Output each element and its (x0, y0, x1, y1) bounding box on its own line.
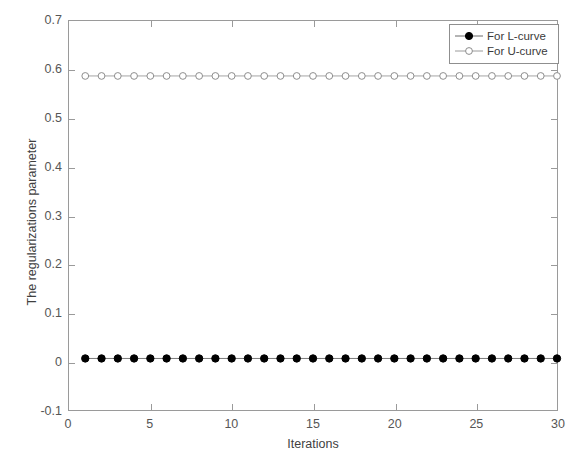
y-tick-mark (551, 314, 557, 315)
x-tick-label: 30 (551, 417, 565, 431)
data-point-marker (358, 355, 365, 362)
data-point-marker (310, 73, 317, 80)
data-point-marker (505, 355, 512, 362)
legend-label-u-curve: For U-curve (484, 45, 548, 57)
data-point-marker (212, 355, 219, 362)
x-axis-title: Iterations (68, 437, 558, 451)
x-tick-mark (314, 404, 315, 410)
x-tick-mark (232, 21, 233, 27)
y-tick-label: -0.1 (6, 404, 62, 418)
legend-label-l-curve: For L-curve (484, 30, 546, 42)
data-point-marker (342, 73, 349, 80)
data-point-marker (537, 73, 544, 80)
x-tick-label: 10 (224, 417, 238, 431)
x-tick-mark (396, 21, 397, 27)
data-point-marker (439, 355, 446, 362)
data-point-marker (163, 73, 170, 80)
data-point-marker (423, 355, 430, 362)
filled-circle-marker-icon (454, 30, 484, 42)
data-point-marker (196, 73, 203, 80)
data-point-marker (553, 355, 560, 362)
data-point-marker (488, 355, 495, 362)
data-point-marker (521, 355, 528, 362)
data-point-marker (440, 73, 447, 80)
x-tick-label: 0 (65, 417, 72, 431)
data-point-marker (98, 73, 105, 80)
series-for-u-curve (82, 73, 561, 80)
y-tick-mark (69, 265, 75, 266)
x-tick-mark (151, 21, 152, 27)
x-tick-mark (396, 404, 397, 410)
data-point-marker (521, 73, 528, 80)
plot-area (68, 20, 558, 411)
data-point-marker (489, 73, 496, 80)
data-point-marker (179, 355, 186, 362)
data-point-marker (261, 73, 268, 80)
y-axis-title: The regularizations parameter (25, 92, 39, 352)
data-point-marker (407, 355, 414, 362)
y-tick-label: 0.7 (6, 13, 62, 27)
legend-entry-u-curve: For U-curve (454, 44, 554, 58)
y-tick-mark (551, 119, 557, 120)
data-series-layer (69, 21, 557, 410)
data-point-marker (342, 355, 349, 362)
legend-entry-l-curve: For L-curve (454, 29, 554, 43)
data-point-marker (131, 73, 138, 80)
x-axis-tick-labels: 051015202530 (68, 417, 558, 437)
open-circle-marker-icon (454, 45, 484, 57)
data-point-marker (261, 355, 268, 362)
y-tick-mark (551, 265, 557, 266)
data-point-marker (82, 73, 89, 80)
x-tick-label: 5 (146, 417, 153, 431)
data-point-marker (456, 355, 463, 362)
data-point-marker (293, 355, 300, 362)
data-point-marker (375, 73, 382, 80)
data-point-marker (554, 73, 561, 80)
data-point-marker (309, 355, 316, 362)
data-point-marker (98, 355, 105, 362)
data-point-marker (114, 355, 121, 362)
data-point-marker (358, 73, 365, 80)
y-tick-label: 0.6 (6, 62, 62, 76)
y-tick-mark (69, 363, 75, 364)
y-tick-mark (69, 217, 75, 218)
data-point-marker (472, 73, 479, 80)
data-point-marker (195, 355, 202, 362)
x-tick-mark (477, 404, 478, 410)
y-tick-mark (69, 168, 75, 169)
x-tick-label: 25 (469, 417, 483, 431)
x-tick-label: 20 (388, 417, 402, 431)
data-point-marker (326, 73, 333, 80)
data-point-marker (163, 355, 170, 362)
figure-canvas: -0.100.10.20.30.40.50.60.7 051015202530 … (0, 0, 583, 470)
x-tick-label: 15 (306, 417, 320, 431)
data-point-marker (456, 73, 463, 80)
y-tick-label: 0 (6, 355, 62, 369)
y-tick-mark (551, 70, 557, 71)
x-tick-mark (151, 404, 152, 410)
data-point-marker (293, 73, 300, 80)
y-tick-mark (69, 70, 75, 71)
data-point-marker (407, 73, 414, 80)
data-point-marker (245, 73, 252, 80)
y-tick-mark (551, 217, 557, 218)
y-tick-mark (551, 168, 557, 169)
legend: For L-curve For U-curve (449, 24, 559, 64)
data-point-marker (147, 73, 154, 80)
y-tick-mark (69, 119, 75, 120)
x-tick-mark (232, 404, 233, 410)
data-point-marker (212, 73, 219, 80)
data-point-marker (147, 355, 154, 362)
data-point-marker (228, 355, 235, 362)
data-point-marker (505, 73, 512, 80)
x-tick-mark (314, 21, 315, 27)
data-point-marker (228, 73, 235, 80)
series-for-l-curve (82, 355, 561, 362)
data-point-marker (277, 73, 284, 80)
data-point-marker (472, 355, 479, 362)
data-point-marker (130, 355, 137, 362)
data-point-marker (179, 73, 186, 80)
data-point-marker (244, 355, 251, 362)
data-point-marker (537, 355, 544, 362)
data-point-marker (277, 355, 284, 362)
